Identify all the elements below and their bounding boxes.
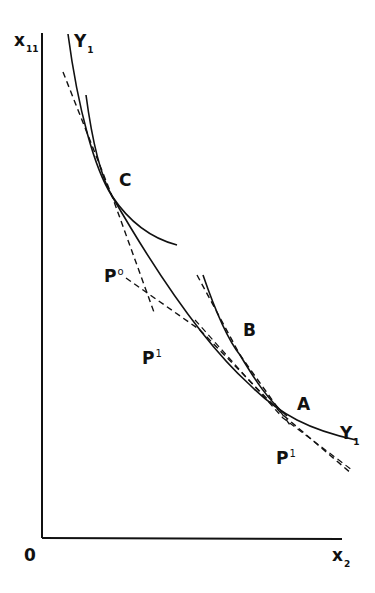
point-b-label: B bbox=[243, 322, 256, 339]
diagram-canvas bbox=[0, 0, 375, 593]
price-line-lower bbox=[195, 320, 352, 470]
p1-right-label-base: P bbox=[276, 448, 288, 468]
price-p1-right-label: P1 bbox=[276, 450, 296, 467]
y1-bottom-label-base: Y bbox=[340, 423, 352, 443]
x-axis-label: x2 bbox=[332, 547, 350, 564]
isoquant-y1-label-top: Y1 bbox=[74, 33, 94, 50]
p0-label-sup: o bbox=[117, 266, 123, 277]
x-axis-label-base: x bbox=[332, 545, 343, 565]
price-p1-left-label: P1 bbox=[142, 350, 162, 367]
x-axis bbox=[42, 538, 342, 539]
p1-right-label-sup: 1 bbox=[289, 448, 295, 459]
price-p0-label: Po bbox=[104, 268, 124, 285]
y1-label-base: Y bbox=[74, 31, 86, 51]
point-a-label: A bbox=[297, 396, 310, 413]
y1-bottom-label-sub: 1 bbox=[353, 437, 359, 447]
x-axis-label-sub: 2 bbox=[344, 559, 350, 569]
y1-label-sub: 1 bbox=[87, 45, 93, 55]
isoquant-y1-curve bbox=[68, 34, 356, 440]
y-axis-label: x11 bbox=[14, 32, 39, 49]
y-axis-label-sub: 11 bbox=[26, 44, 39, 54]
isoquant-y1-label-bottom: Y1 bbox=[340, 425, 360, 442]
origin-label: 0 bbox=[24, 547, 36, 564]
p0-label-base: P bbox=[104, 266, 116, 286]
y-axis-label-base: x bbox=[14, 30, 25, 50]
point-c-label: C bbox=[119, 172, 131, 189]
p1-left-label-base: P bbox=[142, 348, 154, 368]
p1-left-label-sup: 1 bbox=[155, 348, 161, 359]
